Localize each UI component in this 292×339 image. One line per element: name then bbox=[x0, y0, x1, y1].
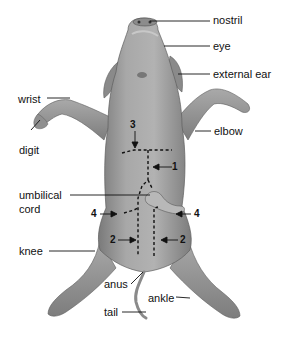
label-cord: cord bbox=[19, 203, 40, 215]
tail-shape bbox=[136, 272, 146, 318]
chin-bump bbox=[137, 72, 147, 78]
label-umbilical: umbilical bbox=[19, 189, 62, 201]
label-knee: knee bbox=[19, 245, 43, 257]
snout-disc bbox=[133, 18, 157, 26]
label-elbow: elbow bbox=[214, 125, 243, 137]
marker-2-right: 2 bbox=[180, 234, 186, 245]
marker-1: 1 bbox=[172, 161, 178, 172]
label-anus: anus bbox=[104, 278, 128, 290]
pig-illustration bbox=[0, 0, 292, 339]
label-tail: tail bbox=[104, 306, 118, 318]
label-external-ear: external ear bbox=[213, 68, 271, 80]
marker-4-right: 4 bbox=[194, 208, 200, 219]
marker-3: 3 bbox=[130, 119, 136, 130]
marker-2-left: 2 bbox=[110, 234, 116, 245]
fetal-pig-diagram: nostril eye external ear wrist digit elb… bbox=[0, 0, 292, 339]
label-wrist: wrist bbox=[18, 93, 41, 105]
label-digit: digit bbox=[19, 144, 39, 156]
label-nostril: nostril bbox=[213, 14, 242, 26]
marker-4-left: 4 bbox=[91, 208, 97, 219]
label-eye: eye bbox=[213, 40, 231, 52]
label-ankle: ankle bbox=[148, 292, 174, 304]
left-foreleg bbox=[36, 100, 112, 140]
